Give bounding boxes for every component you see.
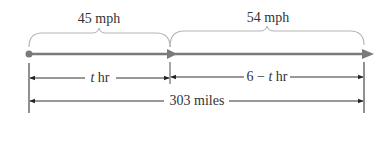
total-distance-label: 303 miles (170, 93, 225, 108)
brace-first-leg (29, 28, 170, 47)
brace-second-leg (170, 26, 364, 47)
speed-label-second: 54 mph (247, 10, 289, 25)
end-arrowhead-icon (362, 49, 374, 59)
segment-first-label: t hr (90, 70, 109, 85)
distance-rate-time-diagram: 45 mph 54 mph t hr 6 − t hr 303 miles (0, 0, 381, 143)
mid-arrowhead-icon (167, 49, 177, 59)
segment-second-label: 6 − t hr (247, 69, 288, 84)
speed-label-first: 45 mph (78, 11, 120, 26)
